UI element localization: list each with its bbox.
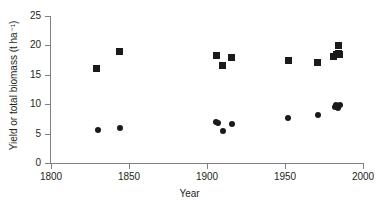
data-point-circle: [117, 125, 123, 131]
y-axis-tick-label: 10: [0, 99, 41, 109]
data-point-square: [314, 59, 321, 66]
y-axis-title: Yield or total biomass (t ha⁻¹): [8, 11, 19, 161]
y-axis-tick-label: 15: [0, 70, 41, 80]
x-axis-tick-label: 2000: [343, 171, 379, 182]
y-axis-tick-label: 5: [0, 129, 41, 139]
data-point-square: [285, 57, 292, 64]
x-axis-tick: [51, 164, 52, 169]
data-point-square: [219, 62, 226, 69]
data-point-circle: [337, 102, 343, 108]
x-axis-title: Year: [0, 188, 379, 199]
data-point-circle: [215, 120, 221, 126]
plot-area: [51, 16, 363, 163]
x-axis-tick-label: 1850: [109, 171, 149, 182]
y-axis-tick: [45, 75, 50, 76]
x-axis-tick: [129, 164, 130, 169]
x-axis-tick: [285, 164, 286, 169]
data-point-circle: [229, 121, 235, 127]
y-axis-tick-label: 0: [0, 158, 41, 168]
y-axis-tick: [45, 16, 50, 17]
data-point-square: [213, 52, 220, 59]
y-axis-tick-label: 25: [0, 11, 41, 21]
data-point-square: [116, 48, 123, 55]
data-point-square: [93, 65, 100, 72]
y-axis-tick: [45, 104, 50, 105]
data-point-square: [228, 54, 235, 61]
data-point-circle: [315, 112, 321, 118]
x-axis-tick-label: 1900: [187, 171, 227, 182]
data-point-circle: [220, 128, 226, 134]
data-point-square: [336, 51, 343, 58]
x-axis-tick: [363, 164, 364, 169]
x-axis-tick: [207, 164, 208, 169]
data-point-circle: [95, 127, 101, 133]
y-axis-tick: [45, 163, 50, 164]
data-point-circle: [285, 115, 291, 121]
y-axis-tick: [45, 134, 50, 135]
y-axis-tick-label: 20: [0, 40, 41, 50]
x-axis-tick-label: 1950: [265, 171, 305, 182]
x-axis-tick-label: 1800: [31, 171, 71, 182]
data-point-square: [335, 42, 342, 49]
y-axis-tick: [45, 45, 50, 46]
scatter-chart-figure: 0510152025 18001850190019502000 Yield or…: [0, 0, 379, 211]
